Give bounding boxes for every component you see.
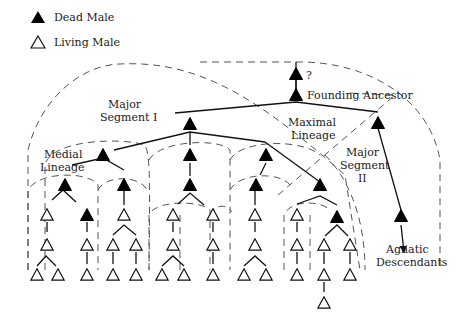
agnatic-label-1: Agnatic (386, 244, 429, 256)
founding-ancestor-label: Founding Ancestor (307, 90, 413, 102)
major-segment-1-label-2: Segment I (100, 112, 157, 124)
medial-lineage-arc-2 (149, 143, 230, 270)
agnatic-node (395, 210, 408, 222)
minimal-arc-6 (284, 203, 330, 270)
major-segment-2-label-3: II (358, 173, 367, 185)
major-segment-2-label-2: Segment (340, 160, 390, 172)
major-segment-2-head-node (372, 117, 385, 129)
maximal-lineage-label-1: Maximal (288, 117, 336, 129)
major-segment-2-label-1: Major (346, 147, 379, 159)
major-segment-1-head-node (184, 118, 197, 130)
medial-lineage-arc-3 (230, 144, 320, 160)
founding-ancestor-node (290, 89, 303, 101)
maximal-lineage-arc (278, 93, 395, 195)
medial-lineage-node (97, 149, 110, 161)
unknown-ancestor-node (290, 68, 303, 80)
medial-lineage-label-2: Lineage (40, 162, 85, 174)
medial-lineage-label-1: Medial (44, 149, 82, 161)
maximal-lineage-label-2: Lineage (291, 130, 336, 142)
living-male-nodes (31, 209, 356, 308)
minimal-arc-3 (149, 203, 210, 270)
agnatic-label-2: Descendants (376, 257, 447, 269)
major-segment-1-label-1: Major (108, 99, 141, 111)
unknown-ancestor-label: ? (306, 70, 312, 82)
